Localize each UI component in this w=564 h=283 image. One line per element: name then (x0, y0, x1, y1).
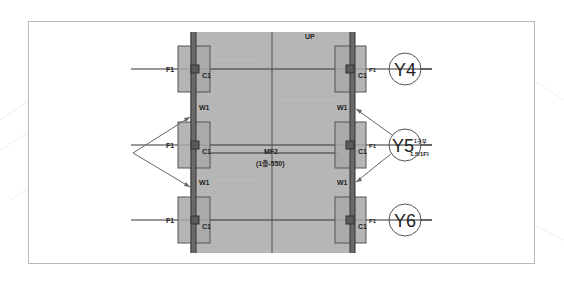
wall-label-right-lower: W1 (337, 179, 348, 186)
column-left-y4 (191, 65, 199, 73)
footing-label-left-y5: F1 (166, 142, 174, 149)
column-label-left-y6: C1 (202, 223, 211, 230)
footing-label-right-y4: F1 (369, 67, 377, 73)
footing-label-left-y6: F1 (166, 217, 174, 224)
column-right-y5 (346, 141, 354, 149)
footing-label-right-y6: F1 (369, 218, 377, 224)
wall-label-left-upper: W1 (199, 104, 210, 111)
slab-spec: (1층-550) (256, 159, 285, 168)
up-label: UP (305, 33, 315, 40)
column-label-left-y4: C1 (202, 72, 211, 79)
footing-label-right-y5: F1 (369, 143, 377, 149)
grid-y5-annotation-bottom: 1.5/1Fl (410, 151, 429, 157)
column-right-y6 (346, 216, 354, 224)
column-right-y4 (346, 65, 354, 73)
grid-label-y4: Y4 (394, 60, 416, 80)
column-label-right-y6: C1 (358, 223, 367, 230)
column-label-right-y4: C1 (358, 72, 367, 79)
footing-label-left-y4: F1 (166, 66, 174, 73)
grid-y5-annotation-top: 1구부 (414, 138, 427, 145)
column-label-left-y5: C1 (202, 148, 211, 155)
column-left-y5 (191, 141, 199, 149)
slab-label: MF2 (264, 148, 278, 155)
wall-label-left-lower: W1 (199, 179, 210, 186)
wall-label-right-upper: W1 (337, 104, 348, 111)
structural-plan: UP MF2 (1층-550) F1 F1 F1 F1 F1 F1 C1 C1 … (0, 0, 564, 283)
column-left-y6 (191, 216, 199, 224)
column-label-right-y5: C1 (358, 148, 367, 155)
grid-label-y6: Y6 (394, 211, 416, 231)
